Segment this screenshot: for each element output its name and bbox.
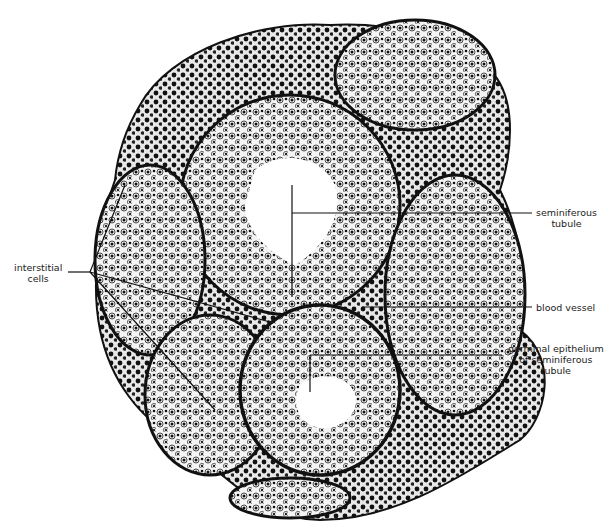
label-blood-vessel: blood vessel	[536, 302, 595, 313]
testis-histology-figure: interstitial cells seminiferous tubule b…	[0, 0, 610, 532]
tubule-top-right	[335, 20, 495, 130]
label-germinal-epithelium: germinal epithelium of seminiferous tubu…	[508, 343, 604, 376]
tubule-bottom	[230, 478, 350, 518]
label-seminiferous-tubule: seminiferous tubule	[536, 207, 597, 229]
label-interstitial-cells: interstitial cells	[14, 262, 62, 284]
tissue-section-drawing	[0, 0, 610, 532]
tubule-right	[385, 175, 525, 415]
